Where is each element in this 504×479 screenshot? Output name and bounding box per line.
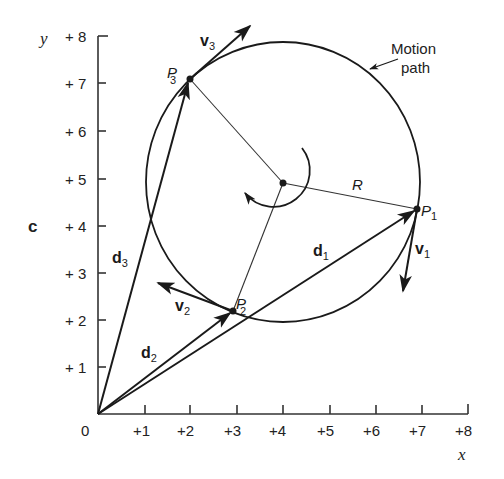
d1-label: d1 (313, 242, 329, 262)
v3-label: v3 (200, 32, 215, 52)
point-p1 (414, 206, 421, 213)
y-tick-5: + 5 (65, 171, 86, 188)
v1-label: v1 (415, 240, 430, 260)
y-tick-1: + 1 (65, 359, 86, 376)
x-tick-2: +2 (177, 422, 194, 439)
motion-path-label-line2: path (401, 59, 430, 76)
p1-label: P1 (421, 202, 437, 222)
p3-label: P3 (167, 64, 177, 86)
y-axis-name: y (38, 29, 48, 48)
y-tick-3: + 3 (65, 265, 86, 282)
motion-path-pointer (370, 59, 398, 69)
x-tick-7: +7 (409, 422, 426, 439)
v2-vector (158, 283, 233, 311)
x-tick-1: +1 (133, 422, 150, 439)
d2-vector (98, 313, 230, 414)
radius-lines (190, 79, 417, 311)
y-tick-8: + 8 (65, 28, 86, 45)
velocity-vectors (158, 26, 417, 311)
x-tick-5: +5 (317, 422, 334, 439)
panel-letter: c (28, 217, 37, 236)
v3-vector (190, 26, 250, 79)
y-tick-7: + 7 (65, 75, 86, 92)
origin-label: 0 (81, 422, 89, 439)
v2-label: v2 (175, 297, 190, 317)
d3-label: d3 (112, 249, 128, 269)
radius-label: R (352, 176, 363, 193)
motion-path-label-line1: Motion (391, 40, 436, 57)
y-tick-4: + 4 (65, 218, 86, 235)
x-axis-name: x (457, 445, 466, 464)
center-point (280, 180, 287, 187)
d2-label: d2 (141, 344, 157, 364)
y-tick-6: + 6 (65, 123, 86, 140)
x-tick-4: +4 (269, 422, 286, 439)
x-tick-8: +8 (455, 422, 472, 439)
y-tick-2: + 2 (65, 312, 86, 329)
motion-diagram: y + 8 + 7 + 6 + 5 + 4 + 3 + 2 + 1 c 0 +1… (0, 0, 504, 479)
displacement-vectors (98, 83, 414, 414)
x-tick-6: +6 (363, 422, 380, 439)
x-tick-3: +3 (224, 422, 241, 439)
point-p3 (187, 76, 194, 83)
